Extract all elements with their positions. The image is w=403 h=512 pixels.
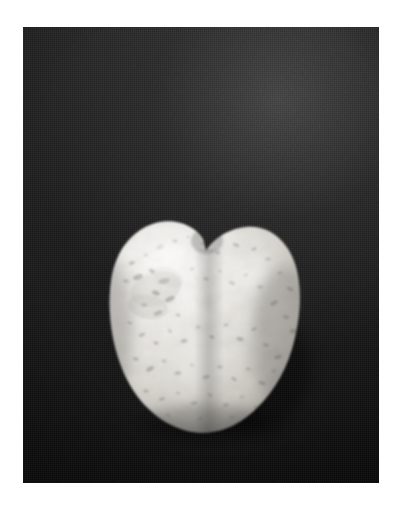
photo-plate — [23, 27, 379, 483]
image-alt-text: A heart-shaped white granite pebble with… — [0, 0, 1, 1]
heart-shaped-stone — [108, 219, 304, 435]
photograph-page: A heart-shaped white granite pebble with… — [0, 0, 403, 512]
